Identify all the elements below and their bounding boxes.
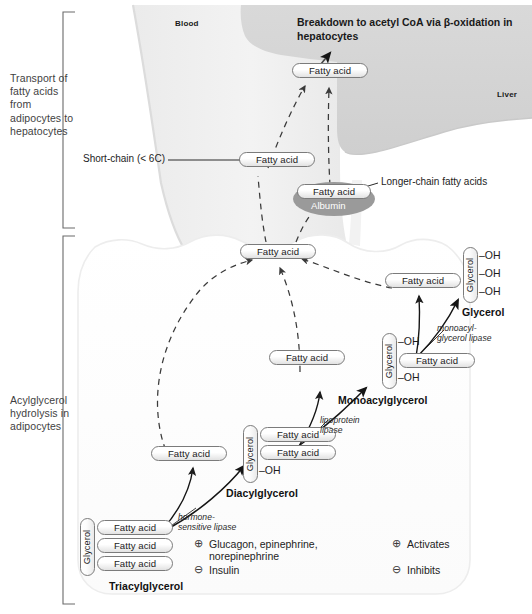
glycerol-group-1: –OH: [479, 267, 501, 279]
region-label-blood: Blood: [175, 19, 199, 28]
glycerol-backbone-glycerol: Glycerol: [463, 247, 478, 303]
fatty-acid-pill-cytosol-pool: Fatty acid: [240, 244, 316, 259]
glycerol-group-0: –OH: [479, 249, 501, 261]
fatty-acid-pill-from-tag: Fatty acid: [151, 446, 227, 461]
glycerol-backbone-label-mag: Glycerol: [385, 344, 395, 379]
legend-inhibits-label: Inhibits: [407, 564, 440, 576]
regulator-activators: Glucagon, epinephrine, norepinephrine: [209, 538, 349, 563]
label-layer: Transport of fatty acids from adipocytes…: [0, 0, 532, 614]
fatty-acid-pill-from-mag: Fatty acid: [385, 273, 461, 288]
fatty-acid-pill-albumin-bound: Fatty acid: [297, 184, 371, 199]
callout-longer-chain: Longer-chain fatty acids: [381, 176, 487, 188]
mag-group-1: Fatty acid: [399, 353, 475, 368]
glycerol-backbone-diacylglycerol: Glycerol: [243, 425, 258, 483]
glycerol-group-2: –OH: [479, 285, 501, 297]
dag-group-2: –OH: [259, 464, 281, 476]
glycerol-backbone-monoacylglycerol: Glycerol: [382, 333, 397, 389]
albumin-label: Albumin: [311, 200, 346, 211]
enzyme-monoacylglycerol-lipase: monoacyl- glycerol lipase: [437, 323, 515, 344]
section-label-hydrolysis: Acylglycerol hydrolysis in adipocytes: [10, 394, 78, 434]
fatty-acid-pill-from-dag: Fatty acid: [269, 350, 345, 365]
regulator-inhibitors: Insulin: [209, 564, 239, 576]
glycerol-backbone-label-tag: Glycerol: [83, 530, 93, 565]
activates-symbol-regulator: ⊕: [194, 537, 203, 550]
mag-group-2: –OH: [398, 371, 420, 383]
glycerol-backbone-label-glycerol: Glycerol: [466, 258, 476, 293]
enzyme-hormone-sensitive-lipase: hormone- sensitive lipase: [178, 512, 254, 533]
callout-short-chain: Short-chain (< 6C): [83, 153, 165, 165]
compound-name-glycerol: Glycerol: [462, 306, 504, 318]
dag-group-1: Fatty acid: [260, 445, 336, 460]
fatty-acid-pill-shortchain: Fatty acid: [239, 152, 315, 167]
legend-inhibits-symbol: ⊖: [392, 563, 401, 576]
tag-group-2: Fatty acid: [97, 556, 173, 571]
fatty-acid-pill-liver: Fatty acid: [292, 63, 368, 78]
legend-activates-symbol: ⊕: [392, 537, 401, 550]
tag-group-1: Fatty acid: [97, 538, 173, 553]
headline-breakdown: Breakdown to acetyl CoA via β-oxidation …: [297, 16, 522, 43]
inhibits-symbol-regulator: ⊖: [194, 563, 203, 576]
mag-group-0: –OH: [398, 335, 420, 347]
section-label-transport: Transport of fatty acids from adipocytes…: [10, 72, 78, 138]
region-label-liver: Liver: [497, 90, 517, 99]
glycerol-backbone-triacylglycerol: Glycerol: [80, 518, 95, 576]
tag-group-0: Fatty acid: [97, 520, 173, 535]
legend-activates-label: Activates: [407, 538, 450, 550]
figure-canvas: Transport of fatty acids from adipocytes…: [0, 0, 532, 614]
compound-name-diacylglycerol: Diacylglycerol: [226, 487, 298, 499]
compound-name-monoacylglycerol: Monoacylglycerol: [338, 394, 428, 406]
glycerol-backbone-label-dag: Glycerol: [246, 437, 256, 472]
compound-name-triacylglycerol: Triacylglycerol: [109, 580, 183, 592]
enzyme-lipoprotein-lipase: lipoprotein lipase: [320, 415, 390, 436]
